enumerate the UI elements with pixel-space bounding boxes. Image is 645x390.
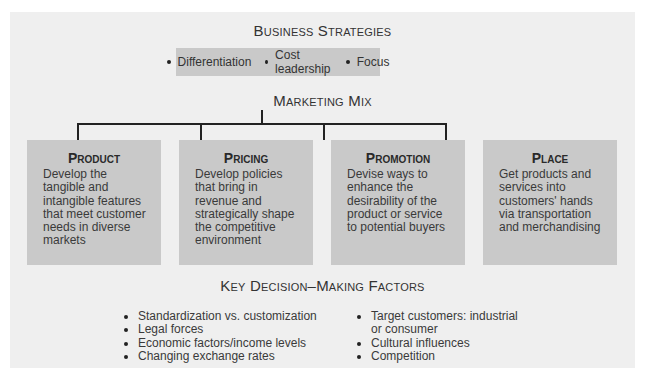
mix-description: Get products and services into customers… xyxy=(499,168,607,234)
connector-horizontal xyxy=(77,123,446,125)
connector-drop-product xyxy=(77,123,79,140)
mix-box-product: Product Develop the tangible and intangi… xyxy=(27,140,161,265)
key-factors-right: Target customers: industrial or consumer… xyxy=(355,310,525,364)
business-strategies-title: Business Strategies xyxy=(0,22,645,39)
strategy-item: Differentiation xyxy=(167,55,252,69)
mix-box-place: Place Get products and services into cus… xyxy=(483,140,617,265)
factor-item: Target customers: industrial or consumer xyxy=(355,310,525,337)
factor-item: Cultural influences xyxy=(355,337,525,350)
bullet-icon xyxy=(357,355,361,359)
bullet-icon xyxy=(124,315,128,319)
bullet-icon xyxy=(357,342,361,346)
bullet-icon xyxy=(124,355,128,359)
bullet-icon xyxy=(124,342,128,346)
mix-heading: Pricing xyxy=(189,150,303,166)
marketing-mix-title: Marketing Mix xyxy=(0,92,645,109)
mix-description: Develop policies that bring in revenue a… xyxy=(195,168,303,248)
factor-item: Economic factors/income levels xyxy=(122,337,322,350)
mix-box-pricing: Pricing Develop policies that bring in r… xyxy=(179,140,313,265)
bullet-icon xyxy=(124,328,128,332)
key-factors-title: Key Decision–Making Factors xyxy=(0,277,645,294)
factor-item: Legal forces xyxy=(122,323,322,336)
bullet-icon xyxy=(265,60,268,64)
strategy-item: Focus xyxy=(346,55,390,69)
mix-heading: Place xyxy=(493,150,607,166)
bullet-icon xyxy=(167,60,171,64)
bullet-icon xyxy=(357,315,361,319)
factor-item: Changing exchange rates xyxy=(122,350,322,363)
mix-box-promotion: Promotion Devise ways to enhance the des… xyxy=(331,140,465,265)
strategy-item: Cost leadership xyxy=(265,48,331,76)
connector-drop-pricing xyxy=(200,123,202,140)
connector-drop-promotion xyxy=(323,123,325,140)
mix-heading: Product xyxy=(37,150,151,166)
connector-drop-place xyxy=(445,123,447,140)
key-factors-left: Standardization vs. customization Legal … xyxy=(122,310,322,364)
factor-item: Competition xyxy=(355,350,525,363)
mix-description: Develop the tangible and intangible feat… xyxy=(43,168,151,248)
mix-heading: Promotion xyxy=(341,150,455,166)
business-strategies-bar: Differentiation Cost leadership Focus xyxy=(176,48,380,76)
bullet-icon xyxy=(346,60,350,64)
factor-item: Standardization vs. customization xyxy=(122,310,322,323)
connector-stem xyxy=(261,110,263,124)
mix-description: Devise ways to enhance the desirability … xyxy=(347,168,455,234)
